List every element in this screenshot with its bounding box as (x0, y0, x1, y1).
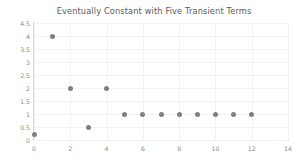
x-tick-label: 12 (248, 145, 256, 152)
gridline-vertical (288, 23, 289, 140)
data-point (50, 34, 55, 39)
gridline-horizontal (34, 36, 288, 37)
gridline-vertical (215, 23, 216, 140)
gridline-horizontal (34, 49, 288, 50)
data-point (213, 112, 218, 117)
x-tick-label: 10 (211, 145, 219, 152)
data-point (140, 112, 145, 117)
y-tick-label: 1 (26, 111, 30, 118)
y-tick-label: 3 (26, 59, 30, 66)
data-point (249, 112, 254, 117)
data-point (86, 125, 91, 130)
y-tick-label: 1.5 (20, 98, 30, 105)
data-point (32, 132, 37, 137)
y-tick-label: 4 (26, 33, 30, 40)
data-point (159, 112, 164, 117)
x-tick-label: 2 (68, 145, 72, 152)
x-tick-label: 8 (177, 145, 181, 152)
y-tick-label: 0 (26, 137, 30, 144)
gridline-vertical (179, 23, 180, 140)
x-tick-label: 0 (32, 145, 36, 152)
gridline-vertical (107, 23, 108, 140)
gridline-horizontal (34, 62, 288, 63)
y-tick-label: 2.5 (20, 72, 30, 79)
data-point (231, 112, 236, 117)
data-point (122, 112, 127, 117)
y-tick-label: 0.5 (20, 124, 30, 131)
gridline-horizontal (34, 140, 288, 141)
y-axis-tick-labels: 00.511.522.533.544.5 (10, 0, 30, 163)
gridline-horizontal (34, 127, 288, 128)
chart-title: Eventually Constant with Five Transient … (0, 6, 308, 16)
y-tick-label: 4.5 (20, 20, 30, 27)
x-tick-label: 14 (284, 145, 292, 152)
plot-area (34, 23, 288, 140)
data-point (195, 112, 200, 117)
gridline-horizontal (34, 75, 288, 76)
data-point (104, 86, 109, 91)
x-tick-label: 6 (141, 145, 145, 152)
y-tick-label: 2 (26, 85, 30, 92)
gridline-vertical (252, 23, 253, 140)
gridline-horizontal (34, 23, 288, 24)
gridline-horizontal (34, 101, 288, 102)
data-point (177, 112, 182, 117)
data-point (68, 86, 73, 91)
y-tick-label: 3.5 (20, 46, 30, 53)
scatter-chart: Eventually Constant with Five Transient … (0, 0, 308, 163)
x-tick-label: 4 (105, 145, 109, 152)
gridline-vertical (34, 23, 35, 140)
gridline-vertical (143, 23, 144, 140)
gridline-vertical (70, 23, 71, 140)
